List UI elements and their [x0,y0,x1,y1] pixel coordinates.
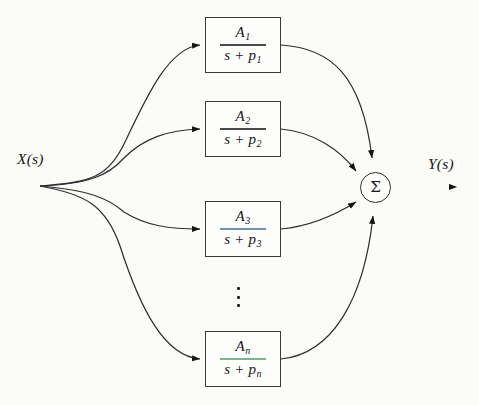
transfer-function-block-n[interactable]: An s + pn [205,331,281,387]
fraction-bar-1 [220,44,266,45]
branch-to-block-2 [40,129,200,186]
output-label: Y(s) [428,155,454,173]
branch-to-block-1 [40,45,200,186]
fraction-bar-3 [220,228,266,229]
block-3-to-sum [281,202,356,229]
summing-input-curves [281,45,373,359]
fraction-3: A3 s + p3 [220,209,266,249]
denominator-1: s + p1 [220,48,265,65]
numerator-2: A2 [230,109,257,127]
block-2-to-sum [281,129,356,171]
input-label: X(s) [17,150,44,168]
sigma-symbol: Σ [370,180,381,195]
fraction-n: An s + pn [220,339,266,379]
block-n-to-sum [281,216,373,359]
denominator-3: s + p3 [220,232,265,249]
fraction-2: A2 s + p2 [220,109,266,149]
input-branch-curves [40,45,200,359]
numerator-3: A3 [230,209,257,227]
vertical-ellipsis [236,287,240,307]
ellipsis-dot [237,304,240,307]
fraction-bar-2 [220,128,266,129]
ellipsis-dot [237,296,240,299]
numerator-n: An [230,339,257,357]
denominator-2: s + p2 [220,132,265,149]
block-1-to-sum [281,45,372,158]
fraction-1: A1 s + p1 [220,25,266,65]
summing-junction[interactable]: Σ [360,172,391,203]
diagram-canvas: A1 s + p1 A2 s + p2 A3 s + p3 An s + pn [0,0,479,405]
transfer-function-block-1[interactable]: A1 s + p1 [205,17,281,73]
numerator-1: A1 [230,25,257,43]
fraction-bar-n [220,358,266,359]
branch-to-block-3 [40,186,200,229]
ellipsis-dot [237,287,240,290]
denominator-n: s + pn [220,362,265,379]
branch-to-block-n [40,186,200,359]
transfer-function-block-3[interactable]: A3 s + p3 [205,201,281,257]
transfer-function-block-2[interactable]: A2 s + p2 [205,101,281,157]
